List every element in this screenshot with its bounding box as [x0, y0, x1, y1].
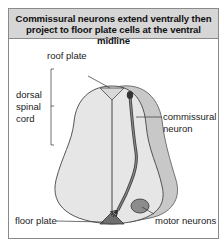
- label-motor-neurons: motor neurons: [155, 215, 216, 227]
- label-dorsal: dorsal: [16, 89, 42, 101]
- label-cord: cord: [16, 113, 34, 125]
- commissural-neuron-soma: [127, 91, 133, 99]
- roof-plate-pointer: [88, 76, 110, 88]
- label-neuron: neuron: [163, 123, 193, 135]
- label-roof-plate: roof plate: [47, 50, 87, 62]
- label-commissural: commissural: [163, 111, 216, 123]
- label-floor-plate: floor plate: [15, 215, 57, 227]
- motor-neurons: [131, 199, 149, 213]
- label-spinal: spinal: [16, 101, 41, 113]
- dorsal-bracket: [51, 69, 54, 145]
